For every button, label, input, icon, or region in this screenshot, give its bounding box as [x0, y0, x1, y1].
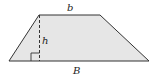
- trapezoid-shape: [9, 15, 149, 61]
- trapezoid-diagram: b h B: [0, 0, 159, 77]
- label-top-base: b: [67, 2, 73, 13]
- label-bottom-base: B: [72, 65, 80, 76]
- label-height: h: [42, 35, 48, 46]
